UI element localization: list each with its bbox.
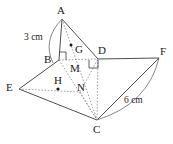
length-label-AB: 3 cm [24, 33, 43, 43]
edge-N-C [80, 92, 97, 120]
vertex-label-N: N [77, 82, 85, 93]
length-label-CF: 6 cm [124, 96, 143, 106]
vertex-label-B: B [44, 54, 51, 65]
edge-A-B [59, 19, 62, 60]
vertex-label-C: C [93, 124, 100, 135]
right-angle-marker-at-B [59, 52, 66, 60]
geometry-figure: A B C D E F G H M N 3 cm 6 cm [0, 0, 173, 144]
edge-E-C [19, 89, 97, 120]
vertex-label-A: A [57, 5, 65, 16]
edge-B-E [19, 60, 59, 89]
vertex-label-H: H [54, 75, 62, 86]
vertex-label-E: E [6, 82, 13, 93]
vertex-label-D: D [98, 45, 106, 56]
vertex-label-M: M [70, 63, 80, 74]
right-angle-marker-at-D [89, 60, 98, 68]
edge-E-N [19, 89, 80, 92]
centroid-dot-H [56, 87, 59, 90]
vertex-label-F: F [160, 46, 166, 57]
vertex-label-G: G [75, 44, 83, 55]
centroid-dot-G [70, 44, 73, 47]
edge-B-D [59, 59, 98, 60]
edge-D-F [98, 58, 159, 59]
geometry-canvas [0, 0, 173, 144]
edge-C-F [97, 58, 159, 120]
